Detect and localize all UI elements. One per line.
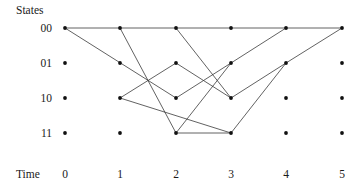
trellis-node [284, 26, 288, 30]
time-axis-title: Time [16, 168, 40, 180]
trellis-node [63, 61, 67, 65]
trellis-canvas: States Time 00011011012345 [0, 0, 362, 192]
trellis-node [118, 61, 122, 65]
trellis-edge [176, 63, 231, 133]
time-tick-label: 5 [339, 168, 345, 180]
trellis-edge [120, 98, 231, 133]
trellis-node [63, 131, 67, 135]
trellis-node [174, 131, 178, 135]
trellis-edge [231, 28, 286, 63]
state-tick-label: 10 [41, 92, 53, 104]
trellis-node [340, 61, 344, 65]
trellis-node [340, 26, 344, 30]
time-tick-label: 2 [173, 168, 179, 180]
trellis-node [284, 131, 288, 135]
label-layer: States Time 00011011012345 [16, 4, 345, 180]
time-tick-label: 1 [117, 168, 123, 180]
trellis-edge [176, 28, 231, 98]
trellis-node [229, 26, 233, 30]
trellis-node [340, 96, 344, 100]
trellis-node [118, 96, 122, 100]
trellis-node [174, 61, 178, 65]
trellis-diagram: States Time 00011011012345 [0, 0, 362, 192]
trellis-node [229, 96, 233, 100]
trellis-node [229, 61, 233, 65]
trellis-node [174, 96, 178, 100]
state-tick-label: 01 [41, 57, 53, 69]
states-axis-title: States [16, 4, 44, 16]
trellis-edge [231, 63, 286, 98]
trellis-node [118, 26, 122, 30]
trellis-edge [231, 63, 286, 133]
time-tick-label: 0 [62, 168, 68, 180]
time-tick-label: 4 [283, 168, 289, 180]
edge-layer [65, 28, 342, 133]
time-tick-label: 3 [228, 168, 234, 180]
state-tick-label: 00 [41, 22, 53, 34]
trellis-node [284, 61, 288, 65]
trellis-node [174, 26, 178, 30]
trellis-node [63, 96, 67, 100]
trellis-node [340, 131, 344, 135]
trellis-node [229, 131, 233, 135]
trellis-node [63, 26, 67, 30]
trellis-node [118, 131, 122, 135]
state-tick-label: 11 [41, 127, 52, 139]
trellis-node [284, 96, 288, 100]
trellis-edge [286, 28, 342, 63]
